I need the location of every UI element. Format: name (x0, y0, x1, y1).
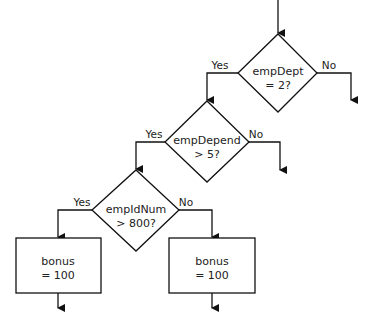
p1-text-line1: bonus (41, 255, 75, 268)
p1-text-line2: = 100 (41, 269, 75, 282)
d1-text-line2: = 2? (265, 79, 291, 92)
d2-text-line2: > 5? (194, 148, 220, 161)
d2-text-line1: empDepend (173, 134, 240, 147)
p2-text-line1: bonus (195, 255, 229, 268)
d2-yes-arrow (136, 142, 165, 169)
d2-yes-label: Yes (145, 128, 163, 140)
d3-yes-label: Yes (73, 196, 91, 208)
d3-yes-arrow (58, 210, 92, 237)
d1-no-label: No (322, 59, 336, 71)
p2-text-line2: = 100 (195, 269, 229, 282)
d1-yes-arrow (207, 73, 238, 100)
d3-no-arrow (179, 210, 212, 237)
d1-text-line1: empDept (253, 65, 305, 78)
d3-text-line1: empIdNum (106, 203, 167, 216)
flowchart: empDept = 2? Yes No empDepend > 5? Yes N… (0, 0, 367, 322)
d3-text-line2: > 800? (116, 217, 156, 230)
d2-no-label: No (249, 128, 263, 140)
d2-no-arrow (249, 142, 280, 170)
d1-yes-label: Yes (211, 59, 229, 71)
d1-no-arrow (317, 73, 351, 100)
d3-no-label: No (179, 196, 193, 208)
